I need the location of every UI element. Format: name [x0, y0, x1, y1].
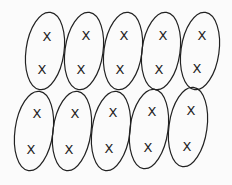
ellipse-group: XX: [87, 89, 136, 174]
ellipse-group: XX: [137, 10, 185, 93]
x-mark: X: [120, 28, 129, 43]
ellipse-outline: [87, 89, 136, 174]
ellipse-outline: [125, 87, 174, 172]
ellipse-group: XX: [10, 89, 59, 174]
ellipse-outline: [176, 10, 224, 93]
x-mark: X: [77, 62, 86, 77]
x-mark: X: [183, 139, 192, 154]
x-mark: X: [193, 61, 202, 76]
ellipse-outline: [137, 10, 185, 93]
ellipse-row-1: XXXXXXXXXX: [21, 10, 224, 93]
ellipse-group: XX: [48, 89, 97, 174]
ellipse-group: XX: [125, 87, 174, 172]
x-mark: X: [27, 142, 36, 157]
x-mark: X: [144, 140, 153, 155]
ellipse-outline: [10, 89, 59, 174]
x-mark: X: [65, 142, 74, 157]
ellipse-group: XX: [164, 85, 213, 170]
x-mark: X: [38, 62, 47, 77]
x-mark: X: [187, 103, 196, 118]
x-mark: X: [116, 62, 125, 77]
ellipse-group: XX: [21, 10, 69, 93]
ellipse-outline: [164, 85, 213, 170]
ellipse-outline: [48, 89, 97, 174]
ellipse-group: XX: [60, 10, 108, 93]
ellipse-group: XX: [176, 10, 224, 93]
x-mark: X: [155, 62, 164, 77]
ellipse-outline: [99, 10, 147, 93]
ellipse-outline: [21, 10, 69, 93]
x-mark: X: [109, 105, 118, 120]
x-mark: X: [148, 104, 157, 119]
x-mark: X: [159, 28, 168, 43]
x-mark: X: [71, 106, 80, 121]
x-mark: X: [33, 106, 42, 121]
x-mark: X: [82, 28, 91, 43]
ellipse-grid: XXXXXXXXXXXXXXXXXXXX: [0, 0, 232, 185]
x-mark: X: [198, 28, 207, 43]
x-mark: X: [43, 29, 52, 44]
ellipse-group: XX: [99, 10, 147, 93]
x-mark: X: [105, 141, 114, 156]
diagram-canvas: XXXXXXXXXXXXXXXXXXXX: [0, 0, 232, 185]
ellipse-outline: [60, 10, 108, 93]
ellipse-row-2: XXXXXXXXXX: [10, 85, 213, 174]
